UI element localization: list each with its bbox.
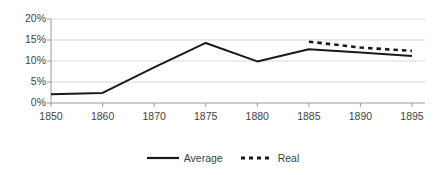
x-axis-labels: 18501860187018751880188518901895	[51, 110, 425, 126]
legend-entry[interactable]: Real	[240, 152, 300, 164]
x-axis-tick-label: 1860	[91, 110, 114, 123]
chart-legend: AverageReal	[0, 148, 445, 168]
legend-label: Real	[278, 152, 300, 164]
x-axis-tick-label: 1885	[297, 110, 320, 123]
y-axis-tick-label: 15%	[2, 34, 46, 45]
series-lines	[51, 19, 425, 103]
x-axis-tick-label: 1850	[39, 110, 62, 123]
y-axis-tick-label: 0%	[2, 97, 46, 108]
legend-entry[interactable]: Average	[146, 152, 223, 164]
x-axis-tick-label: 1895	[400, 110, 423, 123]
y-axis-tick-label: 10%	[2, 55, 46, 66]
x-axis-tick-label: 1880	[246, 110, 269, 123]
x-axis-tick-label: 1870	[142, 110, 165, 123]
line-chart: 0%5%10%15%20% 18501860187018751880188518…	[0, 0, 445, 175]
y-axis-tick-label: 5%	[2, 76, 46, 87]
x-axis-tick-label: 1890	[349, 110, 372, 123]
y-axis-tick-label: 20%	[2, 13, 46, 24]
dashed-line-swatch	[240, 153, 274, 163]
plot-area	[51, 19, 425, 103]
x-axis-tick-label: 1875	[194, 110, 217, 123]
series-line-average	[51, 43, 412, 94]
solid-line-swatch	[146, 153, 180, 163]
legend-label: Average	[184, 152, 223, 164]
